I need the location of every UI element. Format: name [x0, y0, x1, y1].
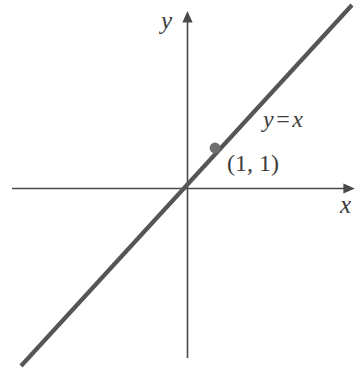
- data-point-1-1: [210, 143, 221, 154]
- x-axis-label: x: [340, 192, 351, 217]
- line-y-equals-x: [21, 5, 352, 366]
- coordinate-plot: [0, 0, 364, 373]
- equation-operator: =: [274, 106, 292, 132]
- graph-figure: y x y=x (1, 1): [0, 0, 364, 373]
- equation-right-term: x: [292, 106, 303, 132]
- y-axis-label: y: [161, 8, 172, 33]
- line-equation-label: y=x: [263, 107, 303, 131]
- equation-left-term: y: [263, 106, 274, 132]
- point-coordinate-label: (1, 1): [227, 151, 279, 175]
